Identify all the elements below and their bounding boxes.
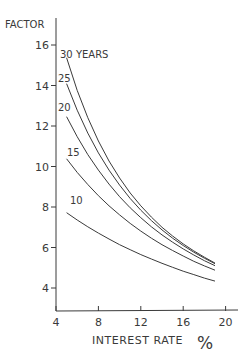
x-axis-label: INTEREST RATE bbox=[92, 334, 183, 347]
y-axis-label: FACTOR bbox=[5, 19, 44, 30]
curve-30-years bbox=[67, 58, 215, 263]
y-tick-label: 6 bbox=[42, 242, 49, 255]
curve-20-years bbox=[67, 117, 215, 266]
curve-label: 30 YEARS bbox=[60, 49, 108, 60]
curve-25-years bbox=[67, 84, 215, 264]
x-tick-label: 16 bbox=[176, 316, 190, 329]
y-tick-label: 16 bbox=[35, 39, 49, 52]
curve-label: 20 bbox=[58, 102, 71, 113]
y-tick-label: 4 bbox=[42, 282, 49, 295]
curve-label: 15 bbox=[67, 147, 80, 158]
curve-label: 25 bbox=[58, 73, 71, 84]
x-tick-label: 12 bbox=[134, 316, 148, 329]
x-axis-unit: % bbox=[197, 333, 213, 353]
x-tick-label: 4 bbox=[53, 316, 60, 329]
curves bbox=[67, 58, 215, 281]
y-tick-label: 14 bbox=[35, 80, 49, 93]
curve-label: 10 bbox=[70, 195, 83, 206]
curve-15-years bbox=[67, 159, 215, 270]
y-tick-label: 10 bbox=[35, 161, 49, 174]
x-tick-label: 8 bbox=[95, 316, 102, 329]
y-tick-label: 12 bbox=[35, 120, 49, 133]
x-tick-label: 20 bbox=[219, 316, 233, 329]
x-axis-line bbox=[56, 310, 238, 311]
axes: 4681012141648121620 bbox=[35, 18, 238, 329]
labels: FACTORINTEREST RATE%30 YEARS25201510 bbox=[5, 19, 213, 353]
curve-10-years bbox=[67, 213, 215, 281]
y-tick-label: 8 bbox=[42, 201, 49, 214]
annuity-factor-chart: 4681012141648121620 FACTORINTEREST RATE%… bbox=[0, 0, 246, 354]
